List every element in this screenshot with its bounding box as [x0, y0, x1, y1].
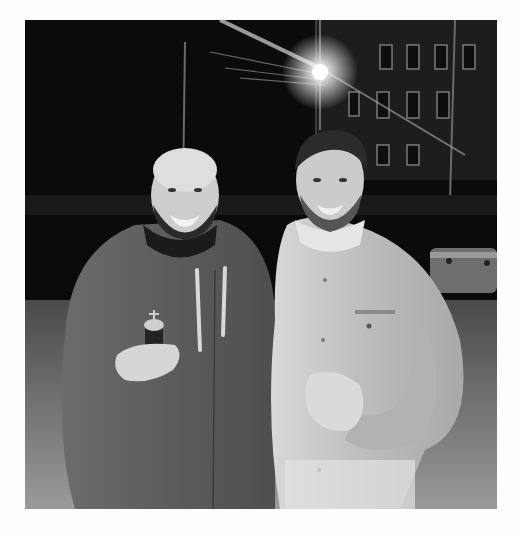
photo [25, 20, 497, 509]
parked-vehicle [430, 248, 497, 293]
photo-illustration [25, 20, 497, 509]
